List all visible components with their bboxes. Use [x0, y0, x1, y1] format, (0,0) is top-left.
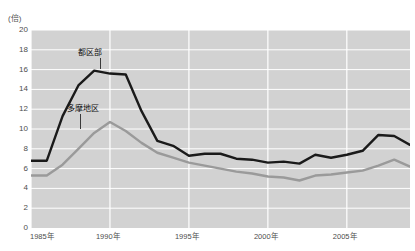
annotation-leader-line-toku-ku-bu [100, 58, 101, 69]
y-axis-tick-label: 6 [4, 165, 28, 173]
y-axis-tick-label: 4 [4, 184, 28, 192]
annotation-label-tama-chiku: 多摩地区 [67, 104, 99, 113]
y-axis-tick-label: 10 [4, 125, 28, 133]
series-lines [31, 71, 410, 181]
y-axis-tick-label: 18 [4, 46, 28, 54]
y-axis-tick-label: 2 [4, 204, 28, 212]
plot-area [31, 30, 410, 228]
y-axis-tick-label: 16 [4, 66, 28, 74]
series-line-tama-chiku [31, 122, 410, 180]
y-axis-tick-label: 20 [4, 26, 28, 34]
x-axis-tick-labels: 1985年1990年1995年2000年2005年 [0, 232, 415, 248]
plot-svg [31, 30, 410, 228]
x-axis-tick-label: 1995年 [175, 232, 199, 241]
y-axis-tick-labels: 02468101214161820 [0, 0, 28, 251]
y-axis-tick-label: 12 [4, 105, 28, 113]
x-axis-tick-label: 2000年 [254, 232, 278, 241]
y-axis-tick-label: 8 [4, 145, 28, 153]
annotation-label-toku-ku-bu: 都区部 [78, 48, 102, 57]
x-axis-tick-label: 2005年 [333, 232, 357, 241]
y-axis-tick-label: 0 [4, 224, 28, 232]
x-axis-tick-label: 1985年 [30, 232, 54, 241]
y-axis-tick-label: 14 [4, 85, 28, 93]
series-line-toku-ku-bu [31, 71, 410, 164]
annotation-leader-line-tama-chiku [80, 114, 81, 129]
x-axis-tick-label: 1990年 [96, 232, 120, 241]
line-chart: (倍) 02468101214161820 1985年1990年1995年200… [0, 0, 415, 251]
